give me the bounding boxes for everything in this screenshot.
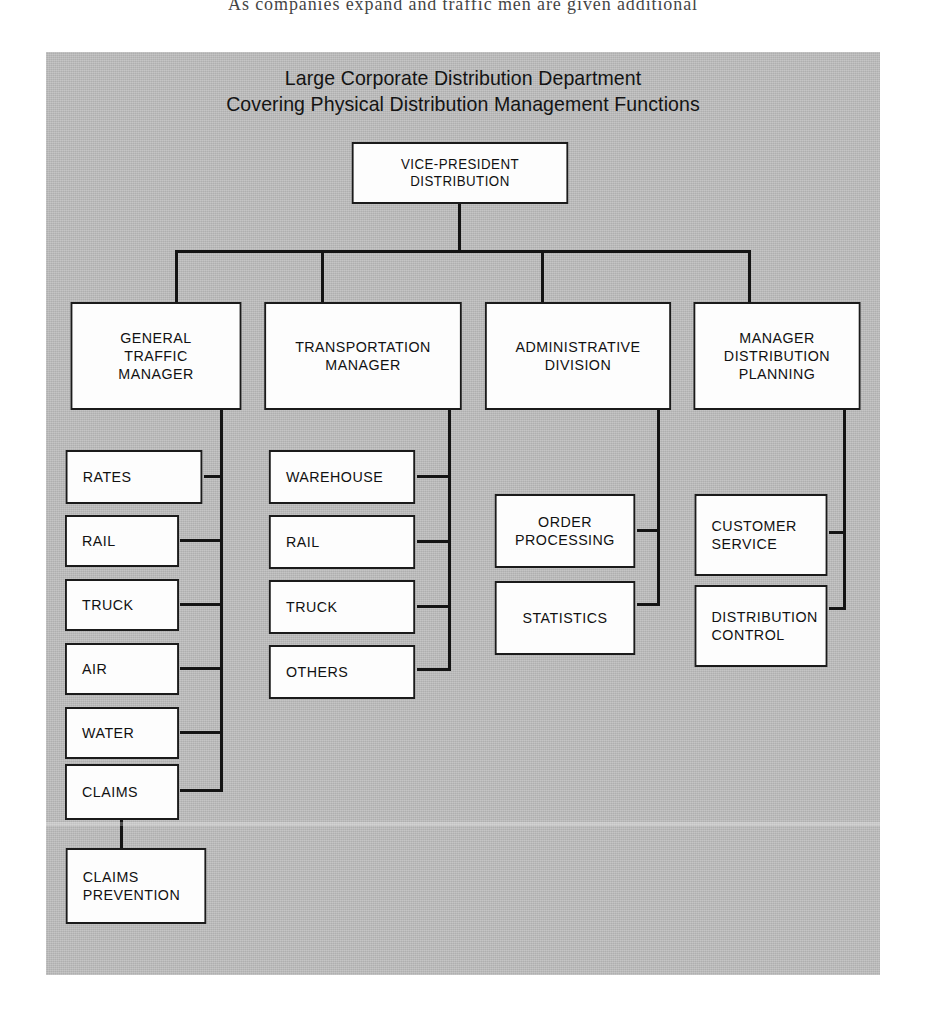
node-statistics[interactable]: STATISTICS — [495, 581, 636, 655]
node-vice-president-distribution[interactable]: VICE-PRESIDENT DISTRIBUTION — [352, 142, 569, 204]
chart-title-line-1: Large Corporate Distribution Department — [75, 66, 851, 90]
connector-col4-spine — [843, 410, 846, 610]
connector-drop-col4 — [748, 250, 751, 304]
node-others[interactable]: OTHERS — [269, 645, 415, 699]
node-label: WAREHOUSE — [286, 468, 383, 486]
node-label: TRUCK — [286, 598, 337, 616]
connector-order-processing-stub — [637, 529, 660, 532]
node-label: ORDER PROCESSING — [515, 513, 615, 548]
node-claims-prevention[interactable]: CLAIMS PREVENTION — [66, 848, 207, 924]
connector-top-bus — [175, 250, 751, 253]
page-bleed-text: As companies expand and traffic men are … — [0, 0, 926, 15]
node-truck-transport[interactable]: TRUCK — [269, 580, 415, 634]
connector-col3-spine — [657, 410, 660, 606]
connector-rail-transport-stub — [417, 540, 451, 543]
connector-claims-prevention-stem — [120, 820, 123, 850]
node-label: STATISTICS — [523, 609, 608, 627]
connector-rail-traffic-stub — [180, 539, 223, 542]
connector-truck-transport-stub — [417, 605, 451, 608]
connector-rates-stub — [204, 475, 223, 478]
node-general-traffic-manager[interactable]: GENERAL TRAFFIC MANAGER — [71, 302, 242, 410]
connector-truck-traffic-stub — [180, 603, 223, 606]
node-label: ADMINISTRATIVE DIVISION — [515, 338, 640, 373]
connector-col1-spine — [220, 410, 223, 792]
chart-title-line-2: Covering Physical Distribution Managemen… — [75, 92, 851, 116]
connector-drop-col3 — [541, 250, 544, 304]
node-rates[interactable]: RATES — [66, 450, 203, 504]
node-transportation-manager[interactable]: TRANSPORTATION MANAGER — [264, 302, 462, 410]
node-distribution-control[interactable]: DISTRIBUTION CONTROL — [695, 585, 828, 667]
connector-distribution-control-stub — [829, 607, 846, 610]
node-label: CUSTOMER SERVICE — [712, 517, 797, 552]
node-truck-traffic[interactable]: TRUCK — [65, 579, 179, 631]
node-label: TRANSPORTATION MANAGER — [295, 338, 431, 373]
node-label: RAIL — [82, 532, 116, 550]
node-claims[interactable]: CLAIMS — [65, 764, 179, 820]
node-rail-traffic[interactable]: RAIL — [65, 515, 179, 567]
org-chart-panel: Large Corporate Distribution Department … — [46, 52, 880, 975]
node-label: TRUCK — [82, 596, 133, 614]
node-label: GENERAL TRAFFIC MANAGER — [118, 329, 193, 382]
node-label: CLAIMS PREVENTION — [83, 868, 180, 903]
node-air[interactable]: AIR — [65, 643, 179, 695]
node-water[interactable]: WATER — [65, 707, 179, 759]
node-label: RATES — [83, 468, 132, 486]
node-administrative-division[interactable]: ADMINISTRATIVE DIVISION — [485, 302, 671, 410]
node-label: DISTRIBUTION CONTROL — [712, 608, 818, 643]
connector-claims-stub — [180, 789, 223, 792]
connector-drop-col1 — [175, 250, 178, 304]
connector-drop-col2 — [321, 250, 324, 304]
connector-vp-stem — [458, 204, 461, 252]
connector-others-stub — [417, 668, 451, 671]
node-label: OTHERS — [286, 663, 348, 681]
node-warehouse[interactable]: WAREHOUSE — [269, 450, 415, 504]
connector-statistics-stub — [637, 603, 660, 606]
node-label: VICE-PRESIDENT DISTRIBUTION — [401, 156, 519, 189]
node-manager-distribution-planning[interactable]: MANAGER DISTRIBUTION PLANNING — [693, 302, 860, 410]
node-label: MANAGER DISTRIBUTION PLANNING — [724, 329, 830, 382]
node-label: CLAIMS — [82, 783, 138, 801]
connector-water-stub — [180, 731, 223, 734]
connector-customer-service-stub — [829, 531, 846, 534]
node-label: WATER — [82, 724, 134, 742]
node-label: RAIL — [286, 533, 320, 551]
connector-air-stub — [180, 667, 223, 670]
node-order-processing[interactable]: ORDER PROCESSING — [495, 494, 636, 568]
connector-warehouse-stub — [417, 475, 451, 478]
node-rail-transport[interactable]: RAIL — [269, 515, 415, 569]
node-label: AIR — [82, 660, 107, 678]
node-customer-service[interactable]: CUSTOMER SERVICE — [695, 494, 828, 576]
